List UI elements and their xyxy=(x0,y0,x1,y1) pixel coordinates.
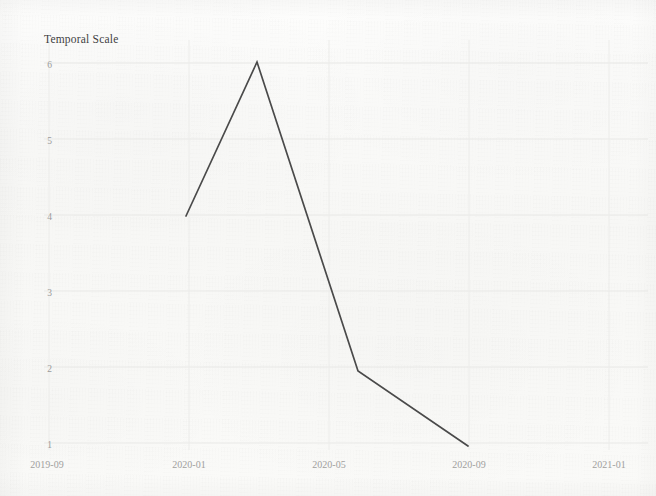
y-tick-label-5: 5 xyxy=(28,136,52,146)
x-tick-label-2021-01: 2021-01 xyxy=(592,459,625,470)
line-chart-plot xyxy=(0,0,656,496)
y-tick-label-2: 2 xyxy=(28,364,52,374)
data-line-temporal-scale xyxy=(186,62,468,446)
horizontal-gridlines xyxy=(44,63,648,443)
y-tick-label-3: 3 xyxy=(28,288,52,298)
y-tick-label-1: 1 xyxy=(28,440,52,450)
chart-title: Temporal Scale xyxy=(44,33,118,45)
x-tick-label-2020-01: 2020-01 xyxy=(172,459,205,470)
x-tick-label-2020-05: 2020-05 xyxy=(312,459,345,470)
y-tick-label-4: 4 xyxy=(28,212,52,222)
x-tick-label-2019-09: 2019-09 xyxy=(30,459,63,470)
y-tick-label-6: 6 xyxy=(28,60,52,70)
scanned-chart-page: Temporal Scale 6 5 4 3 2 1 2019-09 2020-… xyxy=(0,0,656,496)
vertical-gridlines xyxy=(49,40,609,450)
x-tick-label-2020-09: 2020-09 xyxy=(452,459,485,470)
